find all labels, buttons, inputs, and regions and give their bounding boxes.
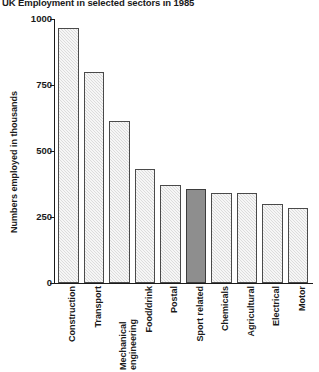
tick-label: 0 [47, 278, 52, 288]
bar-slot [288, 19, 309, 283]
bar-slot [262, 19, 283, 283]
bar-electrical [262, 204, 283, 283]
category-label-food-drink: Food/drink [145, 286, 155, 333]
category-label-construction: Construction [68, 286, 78, 342]
x-axis-line [54, 283, 313, 284]
plot-area: 10007505002500 [55, 19, 313, 283]
bar-slot [109, 19, 130, 283]
bar-food-drink [135, 169, 156, 283]
category-label-transport: Transport [94, 286, 104, 328]
x-axis-category-labels: ConstructionTransportMechanical engineer… [55, 286, 313, 372]
bar-motor [288, 208, 309, 283]
tick-label: 750 [36, 80, 52, 90]
bar-transport [84, 72, 105, 283]
category-label-agricultural: Agricultural [247, 286, 257, 337]
bar-chart: UK Employment in selected sectors in 198… [0, 0, 319, 372]
bar-postal [160, 185, 181, 283]
tick-label: 250 [36, 212, 52, 222]
tick-label: 500 [36, 146, 52, 156]
bar-slot [135, 19, 156, 283]
category-slot: Postal [160, 286, 181, 372]
bar-construction [58, 28, 79, 283]
category-slot: Agricultural [237, 286, 258, 372]
category-slot: Transport [84, 286, 105, 372]
bar-series [55, 19, 313, 283]
category-slot: Motor [288, 286, 309, 372]
bar-agricultural [237, 193, 258, 283]
bar-slot [237, 19, 258, 283]
category-label-sport-related: Sport related [196, 286, 206, 342]
bar-sport-related [186, 189, 207, 283]
bar-slot [160, 19, 181, 283]
bar-chemicals [211, 193, 232, 283]
category-label-postal: Postal [170, 286, 180, 313]
y-axis-title: Numbers employed in thousands [9, 82, 19, 242]
category-slot: Construction [58, 286, 79, 372]
category-slot: Chemicals [211, 286, 232, 372]
category-label-electrical: Electrical [272, 286, 282, 326]
category-slot: Food/drink [135, 286, 156, 372]
category-slot: Electrical [262, 286, 283, 372]
chart-title: UK Employment in selected sectors in 198… [2, 0, 194, 8]
bar-slot [211, 19, 232, 283]
bar-slot [186, 19, 207, 283]
category-label-chemicals: Chemicals [221, 286, 231, 331]
bar-mechanical-engineering [109, 121, 130, 283]
bar-slot [58, 19, 79, 283]
category-label-motor: Motor [298, 286, 308, 311]
category-slot: Sport related [186, 286, 207, 372]
bar-slot [84, 19, 105, 283]
category-slot: Mechanical engineering [109, 286, 130, 372]
tick-label: 1000 [31, 14, 52, 24]
